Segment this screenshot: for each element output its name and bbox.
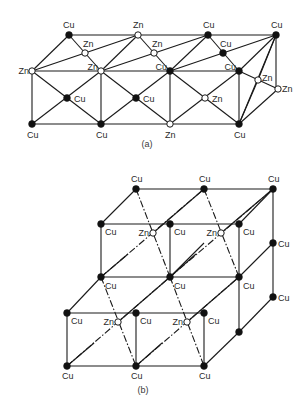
cu-atom-filled-circle	[220, 50, 227, 57]
cu-atom-filled-circle	[236, 68, 243, 75]
cu-atom-filled-circle	[133, 310, 140, 317]
atom-label: Cu	[243, 281, 255, 291]
cu-atom-filled-circle	[98, 221, 105, 228]
cu-atom-filled-circle	[236, 221, 243, 228]
atom-label: Zn	[212, 94, 223, 104]
bond-line	[239, 35, 276, 71]
cu-atom-filled-circle	[64, 95, 71, 102]
atom-label: Zn	[172, 317, 183, 327]
atom-label: Zn	[152, 39, 163, 49]
zn-atom-open-circle	[255, 77, 261, 83]
cu-atom-filled-circle	[236, 274, 243, 281]
atom-label: Cu	[224, 62, 236, 72]
cu-atom-filled-circle	[64, 363, 71, 370]
atom-label: Cu	[268, 174, 280, 184]
atom-label: Cu	[174, 281, 186, 291]
cu-atom-filled-circle	[270, 240, 277, 247]
atom-label: Cu	[131, 174, 143, 184]
panel-b-caption: (b)	[138, 385, 149, 395]
bond-line	[101, 189, 136, 224]
panel-b-diagram: CuCuCuCuZnCuZnCuCuCuCuCuCuCuZnCuZnCuCuCu…	[62, 174, 290, 395]
bond-line	[101, 35, 138, 71]
zn-atom-open-circle	[29, 68, 35, 74]
atom-label: Zn	[282, 84, 293, 94]
atom-label: Cu	[140, 316, 152, 326]
cu-atom-filled-circle	[201, 310, 208, 317]
atom-label: Cu	[105, 227, 117, 237]
cu-atom-filled-circle	[167, 274, 174, 281]
bond-line	[67, 277, 101, 313]
cu-atom-filled-circle	[98, 121, 105, 128]
atom-label: Cu	[27, 130, 39, 140]
atom-label: Cu	[203, 20, 215, 30]
bond-line	[32, 35, 69, 71]
bond-line	[239, 80, 258, 124]
bond-line	[239, 189, 273, 224]
zn-atom-open-circle	[202, 95, 208, 101]
atom-label: Cu	[71, 316, 83, 326]
atom-label: Cu	[199, 174, 211, 184]
cu-atom-filled-circle	[133, 363, 140, 370]
cu-atom-filled-circle	[167, 221, 174, 228]
atom-label: Zn	[103, 317, 114, 327]
atom-label: Cu	[278, 239, 290, 249]
panel-a-labels: CuZnCuCuZnZnCuZnZnCuCuZnZnCuCuZnCuCuZnCu	[18, 20, 292, 140]
cu-atom-filled-circle	[201, 363, 208, 370]
atom-label: Zn	[165, 130, 176, 140]
cu-atom-filled-circle	[270, 294, 277, 301]
atom-label: Zn	[138, 228, 149, 238]
cu-atom-filled-circle	[66, 32, 73, 39]
zn-atom-open-circle	[151, 50, 157, 56]
bond-line	[204, 332, 239, 366]
cu-atom-filled-circle	[133, 186, 140, 193]
bond-line	[239, 243, 273, 277]
zn-atom-open-circle	[135, 32, 141, 38]
zn-atom-open-circle	[218, 230, 224, 236]
zn-atom-open-circle	[150, 230, 156, 236]
bond-line	[239, 297, 273, 332]
cu-atom-filled-circle	[201, 186, 208, 193]
cu-atom-filled-circle	[64, 310, 71, 317]
zn-atom-open-circle	[167, 121, 173, 127]
atom-label: Cu	[131, 371, 143, 381]
bond-line	[239, 89, 278, 124]
panel-a-diagram: CuZnCuCuZnZnCuZnZnCuCuZnZnCuCuZnCuCuZnCu…	[18, 20, 292, 149]
cu-atom-filled-circle	[98, 274, 105, 281]
atom-label: Cu	[278, 293, 290, 303]
cu-atom-filled-circle	[273, 32, 280, 39]
atom-label: Zn	[133, 20, 144, 30]
atom-label: Cu	[220, 39, 232, 49]
atom-label: Zn	[83, 39, 94, 49]
atom-label: Cu	[155, 62, 167, 72]
zn-atom-open-circle	[115, 319, 121, 325]
atom-label: Cu	[63, 20, 75, 30]
zn-atom-open-circle	[184, 319, 190, 325]
crystal-structure-figure: CuZnCuCuZnZnCuZnZnCuCuZnZnCuCuZnCuCuZnCu…	[0, 0, 305, 409]
cu-atom-filled-circle	[167, 68, 174, 75]
cu-atom-filled-circle	[236, 121, 243, 128]
atom-label: Zn	[262, 73, 273, 83]
bond-line	[170, 35, 208, 71]
atom-label: Zn	[206, 228, 217, 238]
cu-atom-filled-circle	[133, 95, 140, 102]
atom-label: Cu	[143, 94, 155, 104]
atom-label: Cu	[96, 130, 108, 140]
atom-label: Cu	[62, 371, 74, 381]
atom-label: Zn	[87, 62, 98, 72]
atom-label: Cu	[105, 281, 117, 291]
zn-atom-open-circle	[82, 50, 88, 56]
cu-atom-filled-circle	[236, 329, 243, 336]
cu-atom-filled-circle	[29, 121, 36, 128]
atom-label: Cu	[174, 227, 186, 237]
atom-label: Cu	[271, 20, 283, 30]
zn-atom-open-circle	[275, 86, 281, 92]
panel-a-caption: (a)	[142, 139, 153, 149]
cu-atom-filled-circle	[270, 186, 277, 193]
atom-label: Cu	[243, 227, 255, 237]
zn-atom-open-circle	[98, 68, 104, 74]
atom-label: Cu	[199, 371, 211, 381]
atom-label: Cu	[208, 316, 220, 326]
atom-label: Cu	[74, 94, 86, 104]
atom-label: Zn	[18, 66, 29, 76]
cu-atom-filled-circle	[205, 32, 212, 39]
